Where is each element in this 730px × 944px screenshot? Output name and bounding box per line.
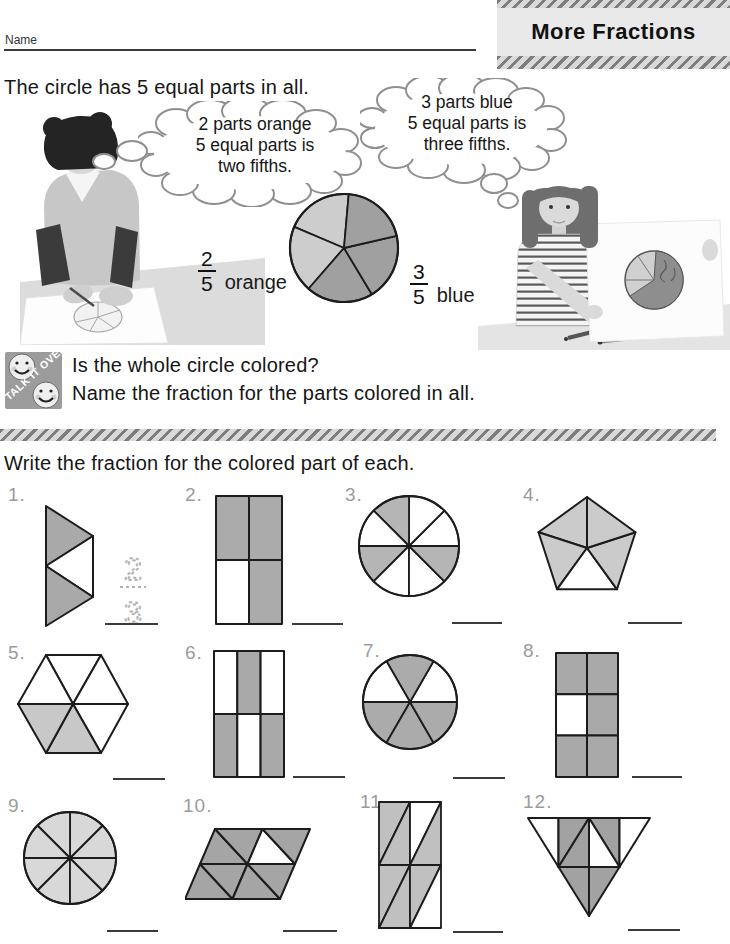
exercise-9-shape	[22, 810, 118, 906]
answer-blank-11[interactable]	[453, 931, 503, 933]
exercise-12-shape	[527, 817, 651, 917]
talk-it-over-icon: TALK IT OVER	[5, 352, 62, 409]
drawn-circle	[74, 302, 122, 332]
exercise-number-6: 6.	[185, 642, 203, 664]
bubble-tail	[497, 192, 519, 209]
boy-right-hand	[99, 286, 133, 306]
exercise-number-8: 8.	[523, 640, 541, 662]
bubble-tail	[480, 173, 508, 194]
instruction-text: Write the fraction for the colored part …	[4, 452, 415, 475]
bubble-tail	[92, 153, 116, 170]
orange-fraction: 2 5	[198, 248, 216, 295]
name-blank-line[interactable]	[4, 49, 476, 51]
section-divider	[0, 429, 716, 441]
answer-blank-5[interactable]	[113, 778, 165, 780]
header-stripe-top	[497, 0, 730, 8]
girl-eye	[549, 205, 553, 209]
answer-blank-1[interactable]	[105, 623, 158, 625]
orange-label: orange	[225, 271, 287, 295]
girl-hand	[702, 239, 718, 261]
traced-answer-two-thirds: 2 3	[110, 550, 160, 632]
answer-blank-7[interactable]	[453, 777, 505, 779]
exercise-number-10: 10.	[183, 795, 212, 817]
example-pie-circle	[288, 192, 400, 304]
exercise-6-shape	[213, 650, 285, 778]
exercise-3-shape	[357, 494, 461, 598]
colored-circle-drawing	[625, 251, 683, 309]
answer-blank-6[interactable]	[293, 776, 345, 778]
header-stripe-bottom	[497, 56, 730, 69]
exercise-4-shape	[537, 492, 637, 598]
exercise-5-shape	[17, 653, 129, 755]
thought-bubble-right-text: 3 parts blue 5 equal parts is three fift…	[372, 92, 562, 155]
answer-blank-12[interactable]	[628, 929, 680, 931]
exercise-10-shape	[185, 828, 311, 900]
orange-fraction-row: 2 5 orange	[198, 248, 287, 295]
exercise-11-shape	[378, 801, 442, 929]
talk-question-2: Name the fraction for the parts colored …	[72, 382, 475, 405]
svg-text:2: 2	[124, 551, 142, 587]
bubble-tail	[116, 140, 148, 162]
exercise-number-12: 12.	[523, 791, 552, 813]
answer-blank-4[interactable]	[628, 622, 682, 624]
exercise-1-shape	[45, 505, 95, 627]
answer-blank-8[interactable]	[632, 776, 682, 778]
blue-fraction: 3 5	[410, 261, 428, 308]
answer-blank-3[interactable]	[452, 622, 502, 624]
worksheet-page: More Fractions Name The circle has 5 equ…	[0, 0, 730, 944]
girl-hand	[585, 305, 603, 319]
answer-blank-9[interactable]	[107, 930, 158, 932]
exercise-7-shape	[361, 653, 459, 751]
talk-question-1: Is the whole circle colored?	[72, 354, 319, 377]
answer-blank-2[interactable]	[292, 623, 343, 625]
girl-photo	[478, 160, 730, 350]
exercise-2-shape	[215, 495, 283, 625]
exercise-number-1: 1.	[8, 484, 26, 506]
exercise-number-2: 2.	[185, 484, 203, 506]
answer-blank-10[interactable]	[283, 930, 337, 932]
intro-sentence: The circle has 5 equal parts in all.	[4, 76, 309, 99]
title-banner: More Fractions	[497, 8, 730, 56]
blue-fraction-row: 3 5 blue	[410, 261, 475, 308]
girl-eye	[566, 205, 570, 209]
smiley-face	[33, 382, 59, 408]
name-label: Name	[5, 33, 37, 47]
page-title: More Fractions	[531, 19, 696, 45]
blue-label: blue	[437, 284, 475, 308]
thought-bubble-left-text: 2 parts orange 5 equal parts is two fift…	[150, 114, 360, 177]
exercise-8-shape	[555, 652, 619, 778]
svg-text:3: 3	[124, 595, 142, 631]
